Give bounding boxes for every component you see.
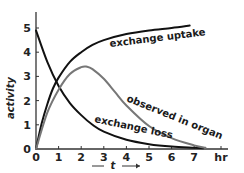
y-tick-label: 2 xyxy=(23,95,31,108)
y-tick-label: 3 xyxy=(23,70,31,83)
y-tick-label: 4 xyxy=(23,46,31,59)
exchange-loss-curve xyxy=(36,30,203,148)
observed-in-organ-curve xyxy=(36,66,206,149)
y-axis-label: activity xyxy=(5,76,16,119)
x-tick-label: 4 xyxy=(123,151,131,164)
x-tick-label: 0 xyxy=(32,151,40,164)
x-unit-label: hr xyxy=(214,151,228,164)
curve-labels: exchange uptakeexchange lossobserved in … xyxy=(94,26,225,141)
x-tick-label: 5 xyxy=(145,151,153,164)
x-tick-label: 7 xyxy=(190,151,198,164)
x-tick-label: 6 xyxy=(168,151,176,164)
x-tick-label: 3 xyxy=(100,151,108,164)
activity-chart: 01234567hr012345activityt exchange uptak… xyxy=(0,0,244,173)
label-observed-in-organ: observed in organ xyxy=(125,93,224,142)
y-tick-label: 5 xyxy=(23,22,31,35)
x-tick-label: 1 xyxy=(55,151,63,164)
y-tick-label: 0 xyxy=(23,143,31,156)
x-axis-label: t xyxy=(111,160,117,171)
y-tick-label: 1 xyxy=(23,119,31,132)
x-tick-label: 2 xyxy=(77,151,85,164)
